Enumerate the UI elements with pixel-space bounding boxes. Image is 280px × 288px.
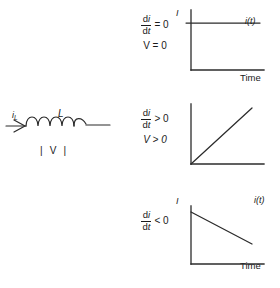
fraction-denominator: dt [141, 120, 151, 131]
fraction-denominator: dt [141, 222, 151, 233]
formula-positive-slope: di dt > 0 V > 0 [126, 108, 184, 145]
panel-positive-slope: di dt > 0 V > 0 I Time i(t) [0, 94, 280, 190]
formula-negative-slope: di dt < 0 [126, 210, 184, 236]
graph-negative-slope [182, 204, 278, 280]
panel-negative-slope: di dt < 0 I Time i(t) [0, 190, 280, 286]
fraction-denominator: dt [141, 26, 151, 37]
relation-operator: = 0 [151, 19, 168, 30]
derivative-fraction: di dt [141, 14, 151, 36]
derivative-fraction: di dt [141, 210, 151, 232]
voltage-condition: V > 0 [126, 134, 184, 145]
formula-zero-slope: di dt = 0 V = 0 [126, 14, 184, 51]
figure-canvas: iL L | V | di dt = 0 V = 0 I Time i [0, 0, 280, 288]
y-axis-label: I [176, 8, 179, 18]
relation-operator: < 0 [151, 215, 168, 226]
derivative-fraction: di dt [141, 108, 151, 130]
graph-zero-slope [182, 8, 278, 84]
x-axis-label: Time [240, 72, 261, 83]
panel-zero-slope: di dt = 0 V = 0 I Time i(t) [0, 0, 280, 96]
graph-positive-slope [182, 102, 278, 178]
voltage-condition: V = 0 [126, 40, 184, 51]
relation-operator: > 0 [151, 113, 168, 124]
curve-label: i(t) [245, 16, 256, 26]
